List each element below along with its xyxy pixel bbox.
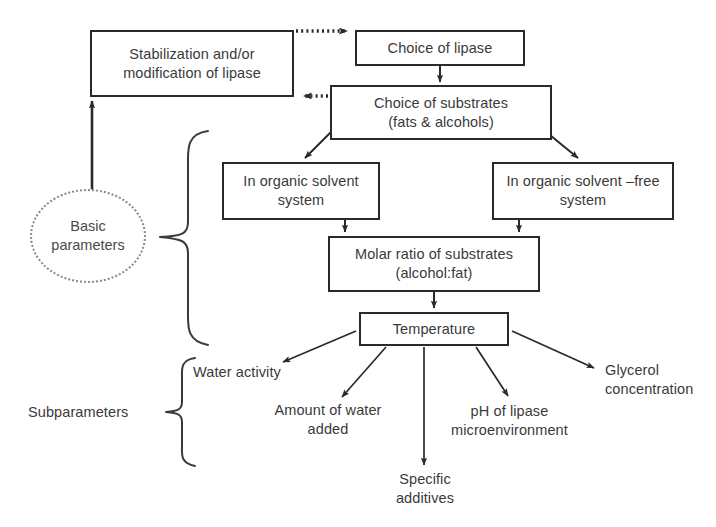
connector-temperature-to-glycerol-concentration [512,331,594,368]
connector-temperature-to-ph-of-lipase-microenvironment [476,347,508,396]
flowchart-canvas: Stabilization and/or modification of lip… [0,0,716,527]
circle-basic-parameters[interactable]: Basic parameters [30,189,146,283]
box-choice-of-lipase[interactable]: Choice of lipase [355,30,525,66]
label-glycerol-concentration: Glycerol concentration [605,361,716,399]
label-amount-of-water-added: Amount of water added [258,401,398,439]
box-temperature[interactable]: Temperature [359,312,509,346]
box-organic-solvent-free-system[interactable]: In organic solvent –free system [492,162,674,220]
box-choice-of-substrates[interactable]: Choice of substrates (fats & alcohols) [330,85,552,140]
box-stabilization[interactable]: Stabilization and/or modification of lip… [90,30,294,97]
label-water-activity: Water activity [193,363,328,382]
label-specific-additives: Specific additives [375,470,475,508]
box-organic-solvent-system[interactable]: In organic solvent system [222,162,380,220]
box-molar-ratio-of-substrates[interactable]: Molar ratio of substrates (alcohol:fat) [328,236,540,292]
label-subparameters: Subparameters [28,403,158,422]
connector-temperature-to-water-activity [283,331,356,362]
connector-choice-of-substrates-to-organic-solvent-system [305,131,332,158]
connector-temperature-to-amount-of-water-added [342,347,386,397]
label-ph-of-lipase-microenvironment: pH of lipase microenvironment [432,402,587,440]
subparameters-brace [166,358,195,466]
basic-parameters-brace [160,131,208,345]
